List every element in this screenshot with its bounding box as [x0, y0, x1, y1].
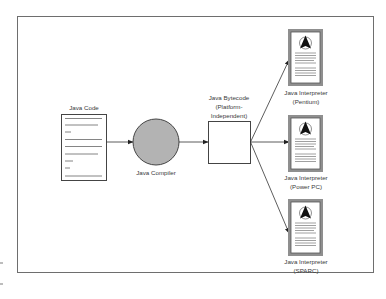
java-bytecode-box: [209, 122, 251, 164]
diagram-canvas: [0, 0, 386, 299]
powerpc-label-line-2: (Power PC): [290, 182, 322, 192]
pentium-interpreter-document-icon: [288, 29, 323, 86]
powerpc-interpreter-document-icon: [288, 115, 323, 172]
sparc-label-line-2: (SPARC): [294, 266, 319, 276]
bytecode-label-line-3: Independent): [211, 111, 247, 121]
arrow-bytecode-to-sparc: [251, 142, 290, 233]
arrow-bytecode-to-pentium: [251, 60, 290, 142]
sparc-interpreter-document-icon: [288, 199, 323, 256]
java-code-label: Java Code: [69, 103, 99, 113]
java-code-document-icon: [62, 115, 107, 181]
pentium-label-line-2: (Pentium): [293, 97, 320, 107]
java-compiler-circle: [133, 119, 179, 165]
java-compiler-label: Java Compiler: [136, 168, 176, 178]
